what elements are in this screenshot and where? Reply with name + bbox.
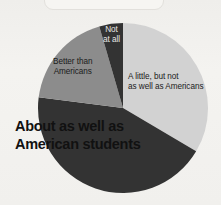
slice-label-about-as-well-as-american-students: About as well as American students bbox=[15, 118, 140, 153]
slice-label-not-at-all: Not at all bbox=[103, 25, 120, 45]
pie-chart: A little, but not as well as Americans B… bbox=[0, 0, 221, 205]
slice-label-a-little-but-not-as-well-as-americans: A little, but not as well as Americans bbox=[128, 72, 203, 93]
slice-label-better-than-americans: Better than Americans bbox=[53, 57, 93, 78]
